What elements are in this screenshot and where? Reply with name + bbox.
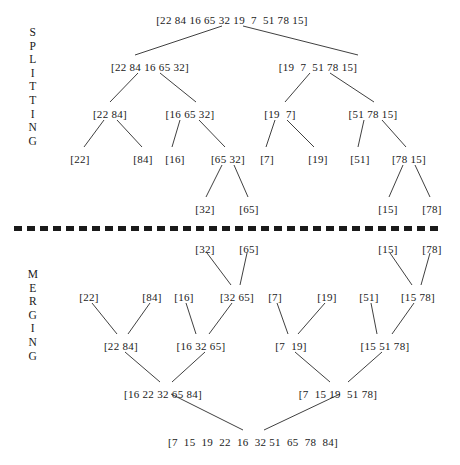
merge-sort-diagram: SPLITTINGMERGING [22 84 16 65 32 19 7 51… [0, 0, 460, 465]
tree-node-s2a: [22 84] [93, 108, 127, 121]
tree-edge [295, 352, 330, 382]
tree-edge [277, 303, 288, 334]
tree-edge [199, 120, 225, 147]
tree-node-s2c: [19 7] [264, 108, 295, 121]
phase-label-letter: I [24, 67, 42, 81]
tree-edge [92, 303, 117, 334]
tree-node-m0c: [15] [378, 243, 398, 256]
phase-label-letter: G [24, 350, 42, 364]
tree-node-m1e: [7] [268, 291, 282, 304]
tree-edge [298, 303, 325, 334]
tree-node-s3d: [65 32] [211, 153, 245, 166]
tree-edge [266, 120, 275, 147]
tree-edge [125, 352, 160, 382]
phase-label-letter: R [24, 295, 42, 309]
tree-node-m1d: [32 65] [220, 291, 254, 304]
tree-edge [128, 303, 150, 334]
phase-divider [14, 226, 442, 231]
phase-label-letter: M [24, 268, 42, 282]
tree-edge [110, 73, 138, 102]
tree-node-m1h: [15 78] [401, 291, 435, 304]
tree-node-s3b: [84] [133, 153, 153, 166]
tree-edge [371, 303, 377, 334]
tree-edge [240, 253, 247, 285]
phase-label-splitting: SPLITTING [24, 26, 42, 148]
tree-node-s1b: [19 7 51 78 15] [279, 61, 357, 74]
edge-layer [0, 0, 460, 465]
tree-edge [392, 303, 414, 334]
phase-label-letter: I [24, 322, 42, 336]
phase-label-letter: G [24, 309, 42, 323]
tree-edge [287, 120, 314, 147]
tree-node-s3c: [16] [165, 153, 185, 166]
tree-node-s2d: [51 78 15] [349, 108, 398, 121]
tree-node-s4c: [15] [378, 203, 398, 216]
tree-node-m2a: [22 84] [104, 340, 138, 353]
tree-node-s3g: [51] [350, 153, 370, 166]
tree-node-s3f: [19] [308, 153, 328, 166]
phase-label-letter: N [24, 121, 42, 135]
tree-edge [382, 120, 406, 147]
tree-edge [389, 165, 403, 197]
tree-node-m0a: [32] [195, 243, 215, 256]
phase-label-letter: L [24, 53, 42, 67]
tree-edge [206, 165, 222, 197]
tree-node-s2b: [16 65 32] [166, 108, 215, 121]
tree-node-m1f: [19] [317, 291, 337, 304]
tree-edge [415, 165, 430, 197]
tree-edge [172, 120, 180, 147]
tree-node-s3e: [7] [260, 153, 274, 166]
tree-node-s4d: [78] [422, 203, 442, 216]
tree-node-m1a: [22] [79, 291, 99, 304]
phase-label-merging: MERGING [24, 268, 42, 363]
tree-node-m2b: [16 32 65] [177, 340, 226, 353]
tree-node-m3b: [7 15 19 51 78] [299, 388, 377, 401]
tree-edge [234, 165, 248, 197]
tree-edge [84, 120, 104, 147]
tree-node-s4a: [32] [195, 203, 215, 216]
phase-label-letter: P [24, 40, 42, 54]
phase-label-letter: T [24, 94, 42, 108]
tree-edge [330, 73, 374, 102]
tree-node-s3a: [22] [70, 153, 90, 166]
tree-node-s0: [22 84 16 65 32 19 7 51 78 15] [156, 14, 308, 27]
tree-edge [135, 26, 222, 55]
tree-edge [207, 253, 231, 285]
phase-label-letter: N [24, 336, 42, 350]
tree-node-s3h: [78 15] [392, 153, 426, 166]
tree-edge [421, 253, 430, 285]
tree-node-m0b: [65] [239, 243, 259, 256]
phase-label-letter: T [24, 80, 42, 94]
tree-edge [285, 73, 310, 102]
phase-label-letter: I [24, 108, 42, 122]
tree-node-m1b: [84] [142, 291, 162, 304]
tree-node-m2d: [15 51 78] [361, 340, 410, 353]
tree-node-m2c: [7 19] [275, 340, 306, 353]
tree-node-s4b: [65] [239, 203, 259, 216]
phase-label-letter: S [24, 26, 42, 40]
tree-node-m1g: [51] [359, 291, 379, 304]
tree-edge [172, 352, 205, 382]
tree-edge [243, 26, 358, 55]
tree-edge [358, 120, 364, 147]
tree-node-s1a: [22 84 16 65 32] [111, 61, 189, 74]
tree-node-m3a: [16 22 32 65 84] [124, 388, 202, 401]
tree-edge [209, 303, 232, 334]
phase-label-letter: E [24, 282, 42, 296]
phase-label-letter: G [24, 135, 42, 149]
tree-node-m4: [7 15 19 22 16 32 51 65 78 84] [168, 436, 338, 449]
tree-edge [117, 120, 142, 147]
tree-edge [186, 303, 196, 334]
tree-edge [160, 73, 196, 102]
tree-edge [390, 253, 412, 285]
tree-node-m0d: [78] [422, 243, 442, 256]
tree-node-m1c: [16] [174, 291, 194, 304]
tree-edge [348, 352, 382, 382]
